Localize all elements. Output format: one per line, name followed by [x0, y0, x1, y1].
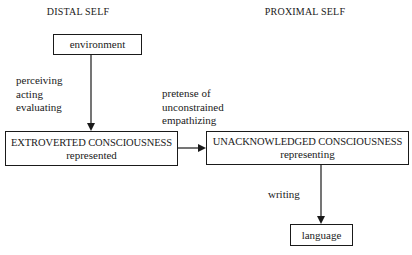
arrow-unacknowledged-to-language	[317, 164, 325, 224]
edge-label-line: evaluating	[16, 101, 62, 115]
edge-label-line: acting	[16, 88, 62, 102]
edge-label-line: perceiving	[16, 74, 62, 88]
node-unacknowledged-title: UNACKNOWLEDGED CONSCIOUSNESS	[213, 135, 402, 148]
node-environment: environment	[53, 34, 142, 55]
node-extroverted-title: EXTROVERTED CONSCIOUSNESS	[11, 136, 172, 149]
edge-label-pretense-of-unconstrained-empathizing: pretense of unconstrained empathizing	[162, 87, 224, 128]
edge-label-line: empathizing	[162, 114, 224, 128]
edge-label-line: writing	[268, 188, 300, 202]
heading-proximal-self: PROXIMAL SELF	[258, 6, 352, 17]
edge-label-perceiving-acting-evaluating: perceiving acting evaluating	[16, 74, 62, 115]
node-language-label: language	[302, 229, 342, 242]
node-unacknowledged-consciousness: UNACKNOWLEDGED CONSCIOUSNESS representin…	[206, 131, 409, 165]
node-extroverted-subtitle: represented	[66, 149, 117, 162]
node-environment-label: environment	[70, 38, 126, 51]
arrow-extroverted-to-unacknowledged	[177, 144, 206, 152]
node-language: language	[290, 224, 353, 246]
edge-label-line: pretense of	[162, 87, 224, 101]
node-unacknowledged-subtitle: representing	[280, 148, 334, 161]
node-extroverted-consciousness: EXTROVERTED CONSCIOUSNESS represented	[5, 131, 178, 166]
edge-label-line: unconstrained	[162, 101, 224, 115]
arrow-environment-to-extroverted	[87, 54, 95, 131]
heading-distal-self: DISTAL SELF	[38, 6, 118, 17]
edge-label-writing: writing	[268, 188, 300, 202]
